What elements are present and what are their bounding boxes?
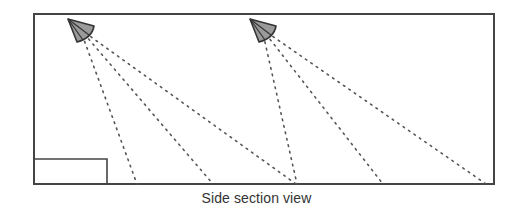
speaker-icon [68,19,94,42]
side-section-diagram [0,0,513,217]
speaker-icon [250,19,276,42]
sound-beam-line [80,29,213,184]
sound-beam-line [80,29,296,184]
diagram-caption: Side section view [0,190,513,206]
sound-beam-line [80,29,137,184]
furniture-box [34,159,107,184]
sound-beam-line [262,29,297,184]
sound-beam-line [262,29,486,184]
